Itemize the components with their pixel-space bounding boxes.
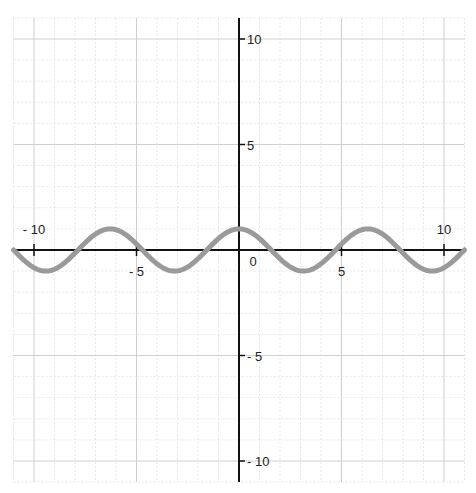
y-tick-label: - 10 <box>247 454 269 469</box>
x-tick-label: - 10 <box>23 222 45 237</box>
function-graph: - 10- 55100105- 5- 10 <box>0 0 476 493</box>
y-tick-label: 5 <box>247 138 254 153</box>
x-tick-label: 10 <box>437 222 451 237</box>
x-tick-label: 5 <box>338 264 345 279</box>
y-tick-label: 10 <box>247 32 261 47</box>
origin-label: 0 <box>249 254 256 269</box>
y-tick-label: - 5 <box>247 349 262 364</box>
x-tick-label: - 5 <box>129 264 144 279</box>
